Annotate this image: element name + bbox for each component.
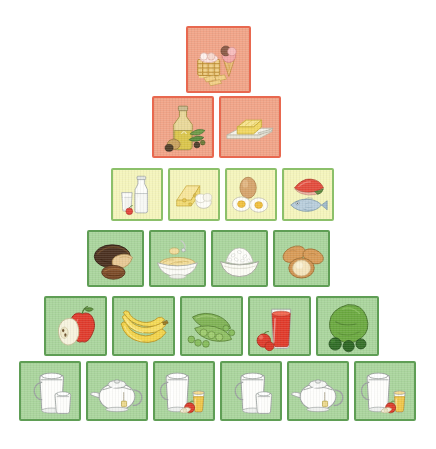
produce-greens[interactable]: Lettuce and broccoli — [316, 296, 379, 356]
icecream-cake-icon — [188, 28, 249, 91]
grains-pasta[interactable]: Bowl of pasta with fork — [149, 230, 206, 287]
tier-label: Fats and oils — [216, 96, 217, 97]
butter-icon — [221, 98, 279, 156]
page-title: Food Pyramid — [0, 21, 1, 22]
teapot-icon — [289, 363, 347, 419]
pyramid-tier-fluids: Water and unsweetened drinks Water jug a… — [19, 361, 416, 421]
tier-label: Water and unsweetened drinks — [217, 361, 218, 362]
grains-potatoes[interactable]: Potatoes — [273, 230, 330, 287]
tier-label: Bread, pasta, rice and potatoes — [208, 230, 209, 231]
fish-icon — [284, 170, 332, 219]
grains-bread[interactable]: Dark bread loaf and rolls — [87, 230, 144, 287]
pyramid-tier-protein: Milk, cheese, eggs and fish Milk bottle … — [111, 168, 334, 221]
jug-juice-icon — [155, 363, 213, 419]
cheese-icon — [170, 170, 218, 219]
pasta-bowl-icon — [151, 232, 204, 285]
grains-rice[interactable]: Bowl of rice — [211, 230, 268, 287]
sweets-cakes-icecream[interactable]: Cakes, pastries and ice cream — [186, 26, 251, 93]
fluids-water-juice-1[interactable]: Water jug with apple and juice glass — [153, 361, 215, 421]
fluids-water-juice-2[interactable]: Water jug with apple and juice glass — [354, 361, 416, 421]
fats-butter[interactable]: Butter on a dish — [219, 96, 281, 158]
banana-icon — [114, 298, 173, 354]
produce-bananas[interactable]: Bunch of bananas — [112, 296, 175, 356]
produce-apples[interactable]: Whole and halved apples — [44, 296, 107, 356]
pyramid-tier-sweets: Sweets and pastries — [186, 26, 251, 93]
fluids-water-jug-1[interactable]: Water jug and mug — [19, 361, 81, 421]
pyramid-tier-produce: Fruit and vegetables Whole and halved ap… — [44, 296, 379, 356]
milk-bottle-icon — [113, 170, 161, 219]
produce-tomato-juice[interactable]: Glass of tomato juice with tomatoes — [248, 296, 311, 356]
fluids-teapot-2[interactable]: Teapot with tea bag — [287, 361, 349, 421]
protein-eggs[interactable]: Boiled and whole eggs — [225, 168, 277, 221]
apple-icon — [46, 298, 105, 354]
jug-juice-icon — [356, 363, 414, 419]
pyramid-tier-grains: Bread, pasta, rice and potatoes Dark bre… — [87, 230, 330, 287]
food-pyramid: Food Pyramid Sweets and pastries — [0, 0, 436, 449]
tomato-juice-icon — [250, 298, 309, 354]
bread-icon — [89, 232, 142, 285]
fluids-teapot-1[interactable]: Teapot with tea bag — [86, 361, 148, 421]
water-jug-icon — [222, 363, 280, 419]
produce-peas[interactable]: Pea pods and green peas — [180, 296, 243, 356]
protein-milk[interactable]: Milk bottle and glass of milk — [111, 168, 163, 221]
fluids-water-jug-2[interactable]: Water jug and mug — [220, 361, 282, 421]
potato-icon — [275, 232, 328, 285]
tier-label: Milk, cheese, eggs and fish — [222, 168, 223, 169]
protein-cheese[interactable]: Cheese wedge and eggs — [168, 168, 220, 221]
olive-oil-icon — [154, 98, 212, 156]
fats-olive-oil[interactable]: Olive oil with olives — [152, 96, 214, 158]
lettuce-broccoli-icon — [318, 298, 377, 354]
protein-fish[interactable]: Fish and seafood — [282, 168, 334, 221]
rice-bowl-icon — [213, 232, 266, 285]
teapot-icon — [88, 363, 146, 419]
peas-icon — [182, 298, 241, 354]
pyramid-tier-fats: Fats and oils Olive oil with olives — [152, 96, 281, 158]
eggs-icon — [227, 170, 275, 219]
water-jug-icon — [21, 363, 79, 419]
